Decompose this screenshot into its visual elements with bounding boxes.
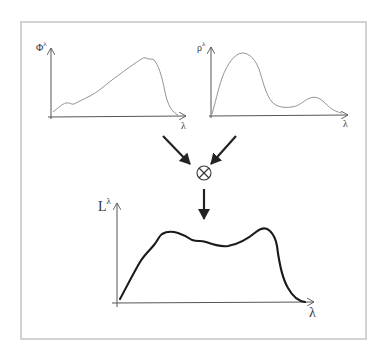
radiance-graph [112,203,314,307]
reflectance-x-axis [209,115,348,116]
reflectance-graph [209,47,348,118]
reflectance-x-label: λ [343,119,348,129]
arrow-from-illuminant [163,136,190,164]
radiance-x-label: λ [309,306,316,320]
reflectance-y-label: ρλ [197,43,205,53]
arrow-from-reflectance [211,136,236,164]
multiply-operator-icon [197,166,211,180]
reflectance-curve [212,53,342,114]
illuminant-x-axis [48,116,186,117]
diagram-canvas [0,0,389,359]
radiance-x-axis [112,302,314,303]
illuminant-x-label: λ [181,121,186,131]
radiance-curve [120,228,305,302]
illuminant-graph [48,48,186,119]
illuminant-y-label: Φλ [36,43,47,53]
radiance-y-label: Lλ [98,200,111,214]
illuminant-curve [53,58,178,115]
